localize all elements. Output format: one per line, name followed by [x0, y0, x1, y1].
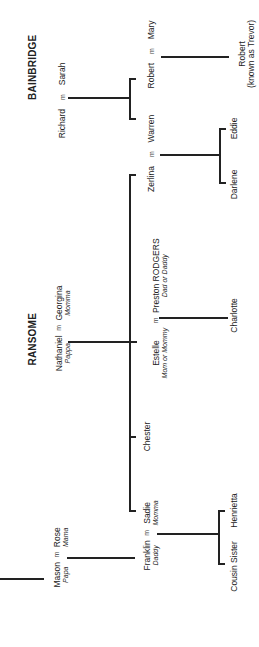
- tick-eddie: [219, 128, 226, 130]
- nickname-estelle: Mom or Mommy: [161, 328, 168, 379]
- person-franklin: Franklin: [143, 540, 152, 570]
- person-chester: Chester: [143, 414, 152, 458]
- person-darlene: Darlene: [230, 160, 239, 208]
- person-georgina: Georgina: [55, 286, 64, 321]
- bracket-ransome-children: [129, 174, 131, 512]
- couple-franklin-sadie: Franklin Daddy m Sadie Momma: [143, 488, 160, 582]
- person-robert-jr-note: (known as Trevor): [247, 20, 256, 88]
- line-richard-sarah-children: [68, 97, 130, 99]
- person-nathaniel: Nathaniel: [55, 335, 64, 371]
- person-mary: Mary: [146, 20, 156, 39]
- person-mason: Mason: [53, 562, 62, 588]
- couple-robert-mary: Robert m Mary: [141, 5, 158, 103]
- person-charlotte: Charlotte: [230, 291, 239, 339]
- line-estelle-preston-children: [159, 317, 228, 319]
- family-title-bainbridge: BAINBRIDGE: [28, 27, 39, 107]
- line-nathaniel-georgina-children: [68, 341, 137, 343]
- person-sadie: Sadie: [143, 502, 152, 524]
- line-franklin-sadie-children: [157, 533, 219, 535]
- bracket-bainbridge-children: [129, 78, 131, 119]
- tick-darlene: [219, 182, 226, 184]
- tick-cousin-sister: [218, 563, 225, 565]
- nickname-nathaniel: Pappa: [64, 343, 71, 363]
- nickname-preston: Dad or Daddy: [161, 254, 168, 297]
- couple-richard-sarah: Richard m Sarah: [52, 45, 69, 155]
- marriage-symbol: m: [59, 94, 66, 100]
- tick-zerlina: [129, 174, 136, 176]
- person-robert-sr: Robert: [146, 63, 156, 89]
- marriage-symbol: m: [55, 325, 62, 331]
- line-ancestor-stub: [0, 578, 44, 580]
- marriage-symbol: m: [53, 552, 60, 558]
- person-rose: Rose: [53, 527, 62, 547]
- line-robert-mary-children: [161, 56, 229, 58]
- person-richard: Richard: [57, 109, 67, 138]
- marriage-symbol: m: [148, 151, 155, 157]
- couple-zerlina-warren: Zerlina m Warren: [141, 104, 158, 202]
- person-estelle: Estelle: [152, 340, 161, 366]
- tick-sadie: [129, 510, 136, 512]
- nickname-sadie: Momma: [152, 500, 159, 525]
- tick-warren: [129, 118, 136, 120]
- person-zerlina: Zerlina: [146, 166, 156, 192]
- tick-robert: [129, 78, 136, 80]
- person-preston: Preston RODGERS: [152, 238, 161, 313]
- marriage-symbol: m: [152, 318, 159, 324]
- couple-nathaniel-georgina: Nathaniel Pappa m Georgina Momma: [55, 273, 72, 383]
- bracket-warren-zerlina-children: [219, 128, 221, 183]
- marriage-symbol: m: [143, 530, 150, 536]
- line-warren-zerlina-children: [160, 154, 220, 156]
- person-robert-jr: Robert (known as Trevor): [238, 14, 256, 94]
- person-cousin-sister: Cousin Sister: [230, 532, 239, 600]
- marriage-symbol: m: [148, 48, 155, 54]
- nickname-rose: Mama: [62, 528, 69, 547]
- nickname-franklin: Daddy: [152, 545, 159, 565]
- person-sarah: Sarah: [57, 63, 67, 86]
- person-henrietta: Henrietta: [230, 483, 239, 537]
- person-eddie: Eddie: [230, 108, 239, 148]
- line-mason-rose-children: [67, 557, 135, 559]
- tick-chester: [129, 436, 136, 438]
- bracket-franklin-sadie-children: [218, 510, 220, 564]
- tick-henrietta: [218, 510, 225, 512]
- couple-mason-rose: Mason Papa m Rose Mama: [53, 510, 70, 604]
- family-title-ransome: RANSOME: [28, 304, 39, 374]
- nickname-georgina: Momma: [64, 290, 71, 315]
- nickname-mason: Papa: [62, 567, 69, 583]
- couple-estelle-preston: Estelle Mom or Mommy m Preston RODGERS D…: [152, 233, 169, 383]
- person-warren: Warren: [146, 115, 156, 143]
